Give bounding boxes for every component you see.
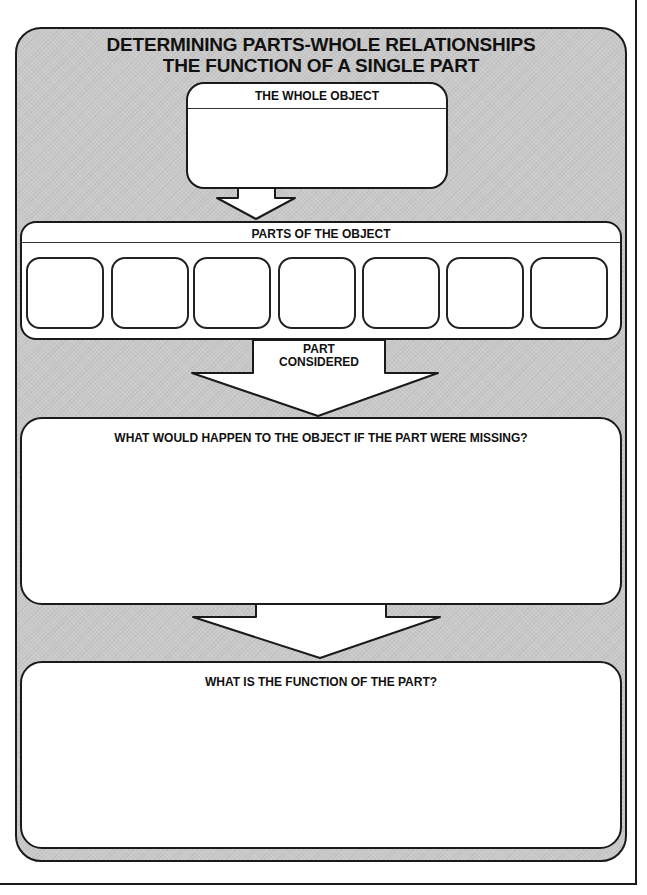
part-function-label: WHAT IS THE FUNCTION OF THE PART? [22, 675, 620, 689]
part-function-box[interactable]: WHAT IS THE FUNCTION OF THE PART? [20, 661, 622, 849]
